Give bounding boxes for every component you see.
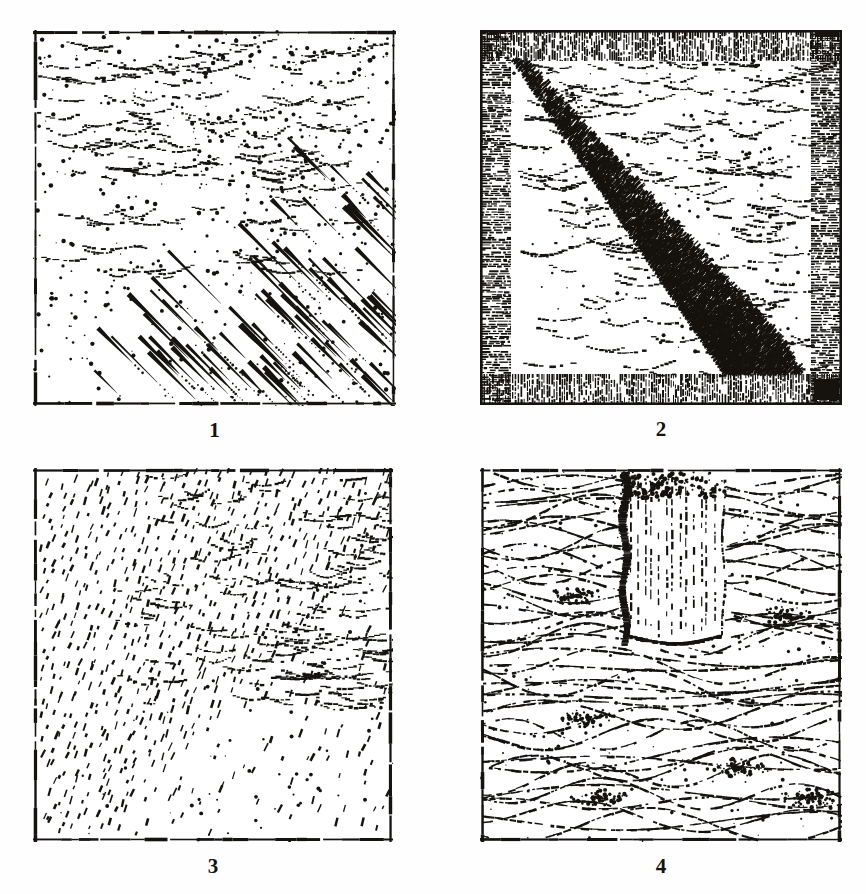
plate-sheet: 1 2 3 <box>0 0 866 894</box>
figure-image-1 <box>33 30 396 406</box>
figure-image-4 <box>480 468 842 842</box>
figure-cell-2: 2 <box>480 30 842 450</box>
figure-caption-4: 4 <box>480 856 842 877</box>
figure-caption-1: 1 <box>33 420 396 441</box>
figure-image-3 <box>33 468 393 842</box>
figure-cell-3: 3 <box>33 468 393 880</box>
figure-caption-2: 2 <box>480 419 842 440</box>
figure-image-2 <box>480 30 842 405</box>
figure-cell-4: 4 <box>480 468 842 880</box>
figure-caption-3: 3 <box>33 856 393 877</box>
figure-cell-1: 1 <box>33 30 396 450</box>
